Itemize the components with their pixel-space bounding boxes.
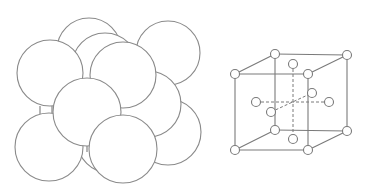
sphere-bottom-center-front bbox=[89, 115, 157, 183]
edge-depth-bottom-left bbox=[235, 130, 275, 150]
fcc-diagram bbox=[0, 0, 366, 196]
edge-depth-bottom-right bbox=[308, 131, 347, 150]
atom-corner-front-top-right bbox=[304, 70, 313, 79]
edge-depth-top-left bbox=[235, 54, 275, 74]
atom-corner-back-bottom-right bbox=[343, 127, 352, 136]
atom-face-bottom bbox=[289, 135, 298, 144]
atom-face-front bbox=[267, 108, 276, 117]
atom-corner-front-bottom-left bbox=[231, 146, 240, 155]
atom-face-left bbox=[252, 98, 261, 107]
atom-face-back bbox=[308, 89, 317, 98]
atom-corner-front-top-left bbox=[231, 70, 240, 79]
atom-corner-back-bottom-left bbox=[271, 126, 280, 135]
edge-back-top bbox=[275, 54, 347, 55]
edge-depth-top-right bbox=[308, 55, 347, 74]
unit-cell-model bbox=[231, 50, 352, 155]
edge-back-bottom bbox=[275, 130, 347, 131]
atom-face-top bbox=[289, 60, 298, 69]
atom-face-right bbox=[325, 98, 334, 107]
hard-sphere-model bbox=[15, 18, 201, 183]
atom-corner-front-bottom-right bbox=[304, 146, 313, 155]
atom-corner-back-top-left bbox=[271, 50, 280, 59]
atom-corner-back-top-right bbox=[343, 51, 352, 60]
